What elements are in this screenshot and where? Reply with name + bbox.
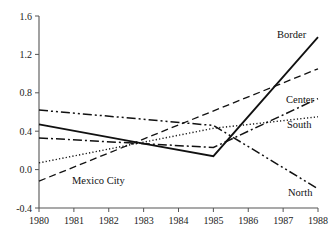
x-tick-label: 1980 [29,215,49,226]
x-tick-label: 1984 [169,215,189,226]
mexico-city-label: Mexico City [72,175,126,186]
x-tick-label: 1988 [308,215,328,226]
y-axis: 1.61.20.80.40.0-0.4 [16,11,39,214]
y-tick-label: -0.4 [16,203,32,214]
y-tick-label: 0.4 [20,126,33,137]
series-labels: BorderCenterSouthNorthMexico City [72,29,314,198]
x-tick-label: 1986 [238,215,258,226]
x-tick-label: 1983 [134,215,154,226]
center-label: Center [286,94,314,105]
south-label: South [287,119,312,130]
north-label: North [288,187,313,198]
y-tick-label: 1.6 [20,11,33,22]
x-axis: 198019811982198319841985198619871988 [29,208,328,226]
y-tick-label: 0.8 [20,87,33,98]
x-tick-label: 1987 [273,215,293,226]
line-chart: 1.61.20.80.40.0-0.4 19801981198219831984… [0,0,336,241]
x-tick-label: 1985 [203,215,223,226]
chart-canvas: 1.61.20.80.40.0-0.4 19801981198219831984… [0,0,336,241]
x-tick-label: 1981 [64,215,84,226]
x-tick-label: 1982 [99,215,119,226]
y-tick-label: 0.0 [20,164,33,175]
y-tick-label: 1.2 [20,49,33,60]
series-line-border [39,37,318,156]
border-label: Border [277,29,307,40]
series-lines [39,37,318,189]
